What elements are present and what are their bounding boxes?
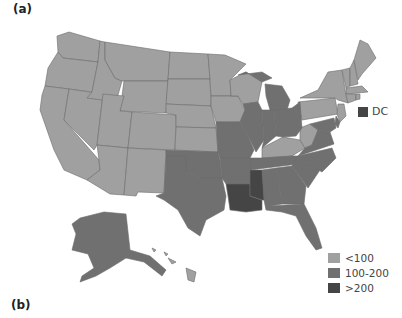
state-ks (175, 127, 218, 152)
state-mt (105, 42, 170, 81)
state-ct (346, 94, 356, 103)
state-wa (57, 32, 100, 62)
legend-swatch-high (328, 283, 340, 293)
state-co (128, 112, 176, 150)
legend-swatch-mid (328, 268, 340, 278)
dc-swatch (358, 107, 368, 117)
state-ia (211, 96, 245, 122)
legend-item-high: >200 (328, 280, 389, 295)
state-ms (250, 170, 264, 200)
legend: <100 100-200 >200 (328, 250, 389, 295)
state-wy (120, 81, 168, 113)
panel-label-b: (b) (11, 298, 31, 312)
state-pa (298, 98, 338, 120)
legend-label-mid: 100-200 (345, 267, 389, 279)
legend-item-low: <100 (328, 250, 389, 265)
legend-label-high: >200 (345, 282, 374, 294)
state-ri (356, 94, 360, 100)
state-me (354, 40, 376, 80)
state-fl (266, 204, 322, 250)
legend-swatch-low (328, 253, 340, 263)
legend-item-mid: 100-200 (328, 265, 389, 280)
state-nd (168, 52, 210, 79)
state-ma (346, 86, 368, 94)
state-ar (220, 158, 252, 184)
state-sd (166, 79, 211, 106)
state-nm (124, 148, 166, 196)
dc-marker: DC (358, 105, 388, 118)
dc-label: DC (372, 105, 388, 118)
legend-label-low: <100 (345, 252, 374, 264)
state-ak (72, 212, 166, 282)
state-ny (300, 70, 348, 103)
